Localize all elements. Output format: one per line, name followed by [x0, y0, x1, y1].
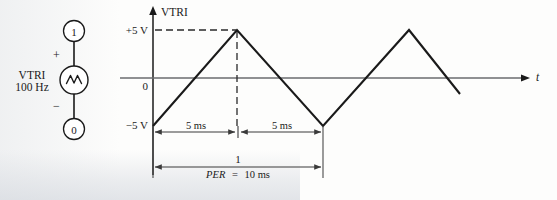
- x-axis-arrow: [521, 74, 530, 81]
- voltage-source-symbol: [60, 66, 88, 94]
- y-tick-zero: 0: [143, 80, 149, 92]
- plus-sign-label: +: [53, 48, 60, 62]
- circuit-diagram: 1 0 + − VTRI 100 Hz: [15, 21, 88, 140]
- source-frequency-label: 100 Hz: [15, 81, 49, 93]
- waveform-plot: VTRI t +5 V 0 −5 V 5 ms 5 ms 1: [120, 6, 540, 180]
- y-tick-minus5v: −5 V: [126, 119, 148, 131]
- y-axis-arrow: [149, 6, 157, 15]
- source-name-label: VTRI: [19, 69, 46, 81]
- label-half-period-right: 5 ms: [272, 120, 292, 131]
- minus-sign-label: −: [53, 99, 60, 113]
- label-period-value: 10 ms: [245, 169, 270, 180]
- dimension-period: 1 PER = 10 ms: [155, 153, 321, 180]
- label-period-equals: =: [232, 169, 238, 180]
- node-0-label: 0: [71, 124, 77, 136]
- x-axis-label: t: [536, 71, 540, 83]
- node-1: 1: [64, 21, 85, 42]
- y-tick-plus5v: +5 V: [126, 24, 148, 36]
- node-1-label: 1: [71, 26, 77, 38]
- label-half-period-left: 5 ms: [186, 120, 206, 131]
- y-axis-label: VTRI: [161, 6, 188, 18]
- label-period-expression: PER = 10 ms: [205, 169, 270, 180]
- figure-vtri-triangle-wave: 1 0 + − VTRI 100 Hz VTRI t: [0, 0, 557, 200]
- label-period-numerator: 1: [235, 153, 241, 165]
- source-circle: [60, 66, 88, 94]
- node-0: 0: [64, 119, 85, 140]
- label-period-per: PER: [205, 169, 226, 180]
